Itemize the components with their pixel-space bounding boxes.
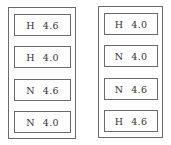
cell: H 4.0 (104, 13, 158, 35)
cell-group: H (115, 116, 124, 127)
cell-group: N (115, 51, 124, 62)
cell-value: 4.0 (43, 117, 59, 128)
cell-value: 4.0 (43, 52, 59, 63)
cell: H 4.0 (14, 46, 71, 68)
cell-group: N (26, 117, 35, 128)
cell-group: H (26, 20, 35, 31)
cell-value: 4.0 (131, 19, 147, 30)
cell-value: 4.0 (131, 51, 147, 62)
cell-group: N (115, 84, 124, 95)
cell: N 4.0 (104, 45, 158, 67)
left-column: H 4.6 H 4.0 N 4.6 N 4.0 (8, 7, 76, 139)
cell: N 4.6 (104, 78, 158, 100)
cell: H 4.6 (14, 14, 71, 36)
cell-value: 4.6 (43, 20, 59, 31)
cell: H 4.6 (104, 110, 158, 132)
cell-group: H (115, 19, 124, 30)
cell-value: 4.6 (43, 85, 59, 96)
cell-value: 4.6 (131, 84, 147, 95)
cell: N 4.0 (14, 111, 71, 133)
cell-group: N (26, 85, 35, 96)
cell: N 4.6 (14, 79, 71, 101)
cell-value: 4.6 (131, 116, 147, 127)
right-column: H 4.0 N 4.0 N 4.6 H 4.6 (98, 6, 163, 138)
cell-group: H (26, 52, 35, 63)
